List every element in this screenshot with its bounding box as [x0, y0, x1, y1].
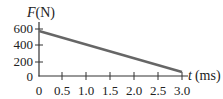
- x-axis-var: t: [188, 68, 193, 83]
- x-tick-label: 3.0: [174, 83, 190, 98]
- y-tick-label: 600: [14, 21, 34, 36]
- y-axis-var: F: [26, 5, 36, 20]
- x-tick-label: 0.5: [54, 83, 70, 98]
- x-tick-label: 1.0: [78, 83, 94, 98]
- y-axis-unit: (N): [36, 5, 56, 21]
- force-time-chart: 600 400 200 0 0 0.5 1.0 1.5 2.0 2.5 3.0 …: [0, 0, 223, 99]
- x-tick-label: 2.0: [126, 83, 142, 98]
- y-tick-label: 200: [14, 54, 34, 69]
- y-tick-label: 400: [14, 37, 34, 52]
- force-line: [39, 31, 182, 72]
- x-tick-label: 1.5: [102, 83, 118, 98]
- x-tick-label: 0: [36, 83, 43, 98]
- x-tick-label: 2.5: [150, 83, 166, 98]
- y-tick-label: 0: [27, 69, 34, 84]
- x-axis-label: t(ms): [188, 68, 221, 84]
- y-axis-label: F(N): [26, 5, 55, 21]
- x-axis-unit: (ms): [195, 68, 221, 84]
